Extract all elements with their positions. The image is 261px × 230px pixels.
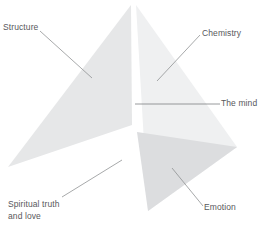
structure-leader-line <box>40 31 92 78</box>
label-chemistry: Chemistry <box>202 28 241 40</box>
spiritual-leader-line <box>62 160 122 197</box>
diagram-canvas: Structure Chemistry The mind Emotion Spi… <box>0 0 261 230</box>
label-spiritual-truth-and-love: Spiritual truth and love <box>8 199 60 222</box>
label-structure: Structure <box>3 22 38 34</box>
label-the-mind: The mind <box>221 98 257 110</box>
label-emotion: Emotion <box>204 202 236 214</box>
